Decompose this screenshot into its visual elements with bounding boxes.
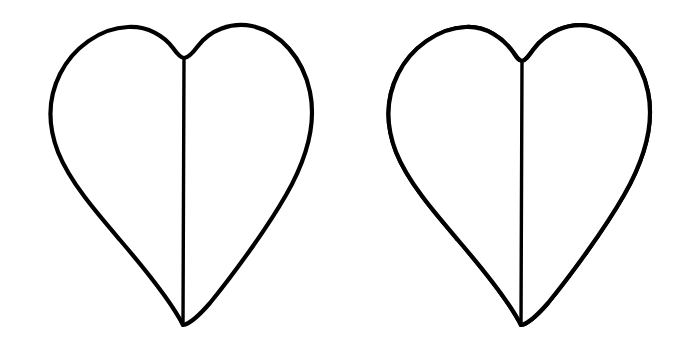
figure-root	[0, 0, 694, 356]
right-heart-septum-overstroke	[521, 61, 522, 324]
heart-diagram-svg	[0, 0, 694, 356]
left-heart-septum	[183, 58, 184, 324]
